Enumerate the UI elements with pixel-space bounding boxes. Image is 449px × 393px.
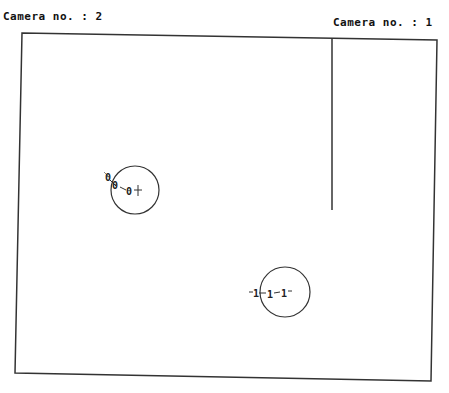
svg-text:0: 0 — [105, 172, 111, 183]
svg-text:1: 1 — [253, 288, 259, 299]
camera-2-target: 0 0 0 — [104, 166, 159, 214]
camera-view-canvas: 0 0 0 1 1 1 — [0, 0, 449, 393]
view-frame — [15, 33, 437, 381]
svg-text:0: 0 — [126, 186, 132, 197]
svg-text:1: 1 — [281, 288, 287, 299]
camera-1-target: 1 1 1 — [249, 267, 310, 317]
svg-text:0: 0 — [112, 180, 118, 191]
svg-text:1: 1 — [267, 289, 273, 300]
